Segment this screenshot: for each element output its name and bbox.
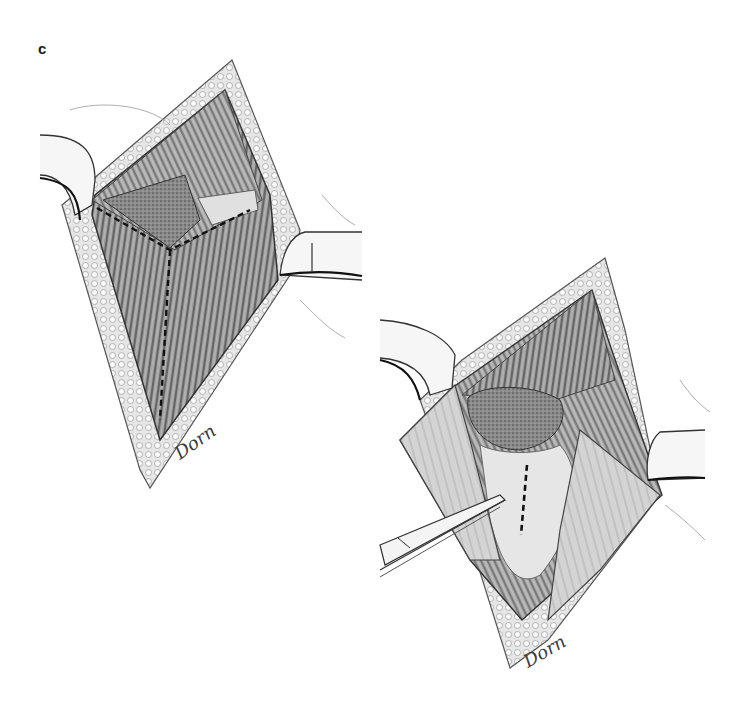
- illustration-lower-right: Dorn: [380, 258, 710, 672]
- illustration-upper-left: Dorn: [40, 60, 362, 488]
- surgical-illustration: Dorn Dorn: [0, 0, 736, 718]
- retractor-right: [647, 430, 705, 480]
- retractor-left: [380, 320, 455, 395]
